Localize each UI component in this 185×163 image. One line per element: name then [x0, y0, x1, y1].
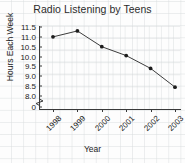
x-tick-mark	[126, 109, 127, 112]
x-tick-mark	[151, 109, 152, 112]
y-tick-mark	[39, 56, 42, 57]
y-tick-mark	[39, 66, 42, 67]
plot-gridlines	[39, 26, 180, 109]
x-tick-mark	[77, 109, 78, 112]
x-tick-mark	[102, 109, 103, 112]
y-tick-mark	[39, 46, 42, 47]
y-tick-mark	[39, 86, 42, 87]
x-tick-mark	[53, 109, 54, 112]
y-tick-mark	[39, 36, 42, 37]
y-axis-title: Hours Each Week	[5, 9, 15, 85]
y-tick-mark	[39, 76, 42, 77]
y-tick-mark	[39, 107, 42, 108]
x-axis-line	[39, 109, 181, 110]
plot-area	[39, 26, 180, 109]
x-tick-mark	[175, 109, 176, 112]
y-axis-break-icon	[35, 96, 44, 107]
x-axis-title: Year	[0, 144, 185, 154]
y-tick-label: 8.0	[5, 92, 36, 101]
y-tick-mark	[39, 96, 42, 97]
chart-screenshot: Radio Listening by Teens 11.511.010.510.…	[0, 0, 185, 163]
y-tick-label: 0	[5, 103, 36, 112]
y-tick-mark	[39, 27, 42, 28]
